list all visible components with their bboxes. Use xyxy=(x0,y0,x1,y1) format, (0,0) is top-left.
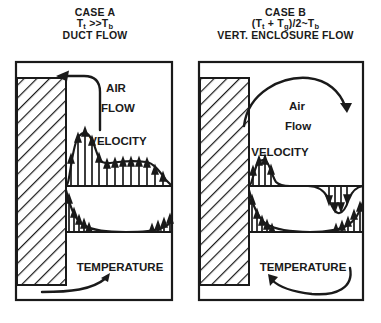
case-b-air-flow-arrowhead xyxy=(340,103,352,113)
case-a-diagram: AIR FLOW VELOCITY xyxy=(0,0,190,323)
panel-case-b: CASE B (Tt + Tg)/2~Tb VERT. ENCLOSURE FL… xyxy=(190,0,381,323)
case-b-heated-wall xyxy=(200,78,249,285)
case-a-velocity-label: VELOCITY xyxy=(89,135,147,147)
case-b-temperature-label: TEMPERATURE xyxy=(260,261,347,273)
case-b-velocity-profile-down xyxy=(290,186,363,213)
case-b-air-flow-label-line2: Flow xyxy=(285,120,311,132)
case-a-temperature-label: TEMPERATURE xyxy=(77,261,164,273)
panel-case-a: CASE A Tt >>Tb DUCT FLOW AIR FLOW VELOCI… xyxy=(0,0,190,323)
case-a-heated-wall xyxy=(17,78,66,285)
case-a-air-flow-label-line1: AIR xyxy=(106,82,127,94)
case-b-air-flow-label-line1: Air xyxy=(289,100,306,112)
case-b-diagram: Air Flow VELOCITY xyxy=(190,0,381,323)
case-a-temperature-arrows xyxy=(66,195,173,232)
case-b-velocity-label: VELOCITY xyxy=(251,146,309,158)
case-a-air-flow-label-line2: FLOW xyxy=(101,102,135,114)
case-a-air-flow-arrow xyxy=(62,76,100,130)
